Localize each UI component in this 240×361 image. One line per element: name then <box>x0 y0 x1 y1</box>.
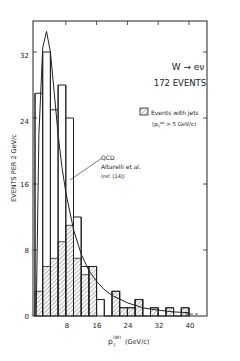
hatched-bar <box>66 225 74 316</box>
y-axis-label: EVENTS PER 2 GeV/c <box>10 134 18 202</box>
x-tick-label: 32 <box>155 322 164 330</box>
x-tick-label: 24 <box>124 322 133 330</box>
y-tick-label: 32 <box>20 52 29 60</box>
qcd-reference: (ref. [14]) <box>101 173 125 179</box>
hatched-bar <box>50 258 58 316</box>
x-axis-label: p T (W) (GeV/c) <box>108 335 149 348</box>
svg-text:T: T <box>112 343 116 348</box>
hatched-bar <box>58 242 66 316</box>
histogram-chart: 0 8 16 24 32 8 16 24 32 40 EVENTS PER 2 … <box>0 0 240 361</box>
chart-subtitle: 172 EVENTS <box>154 78 206 88</box>
legend-sublabel: (pTjet > 5 GeV/c) <box>152 121 196 129</box>
hatched-bar <box>89 267 97 317</box>
x-tick-label: 40 <box>186 322 195 330</box>
y-tick-label: 0 <box>25 313 29 321</box>
x-tick-label: 16 <box>93 322 102 330</box>
total-histogram <box>35 52 189 316</box>
y-tick-label: 24 <box>20 118 29 126</box>
hatched-bar <box>120 308 128 316</box>
hatched-bar <box>127 308 135 316</box>
legend-hatch-swatch <box>140 108 148 115</box>
qcd-label: QCD <box>101 154 115 161</box>
hatched-bar <box>81 275 89 316</box>
qcd-author: Altarelli et al. <box>101 163 141 170</box>
y-tick-label: 16 <box>20 181 29 189</box>
hatched-bar <box>43 267 51 317</box>
hatched-bar <box>112 291 120 316</box>
legend-label: Events with jets <box>151 109 199 117</box>
hatched-bar <box>74 258 82 316</box>
x-tick-label: 8 <box>65 322 69 330</box>
qcd-annotation-line <box>70 158 102 180</box>
svg-text:(W): (W) <box>113 335 121 340</box>
svg-text:(GeV/c): (GeV/c) <box>125 338 149 346</box>
chart-title: W → eν <box>172 62 205 72</box>
y-tick-label: 8 <box>25 247 29 255</box>
